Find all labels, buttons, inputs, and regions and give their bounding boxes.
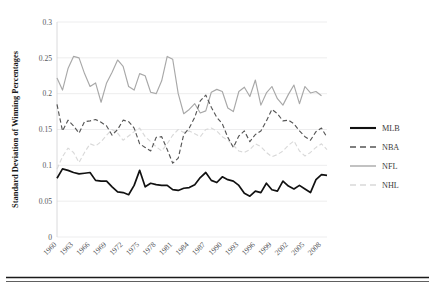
series-line-mlb [57, 169, 327, 196]
y-tick-label-0.25: 0.25 [39, 54, 52, 63]
x-tick-label-1960: 1960 [41, 240, 58, 257]
legend-label-nba: NBA [382, 143, 399, 152]
y-axis-title: Standard Deviation of Winning Percentage… [11, 50, 20, 208]
gridlines [57, 22, 327, 237]
legend-label-nfl: NFL [382, 162, 397, 171]
series-line-nhl [57, 128, 327, 169]
x-tick-label-1984: 1984 [174, 240, 191, 257]
x-tick-label-1975: 1975 [124, 240, 141, 257]
y-tick-labels: 00.050.10.150.20.250.3 [39, 18, 53, 242]
legend-label-mlb: MLB [382, 124, 400, 133]
y-tick-label-0.2: 0.2 [43, 89, 53, 98]
x-tick-label-1978: 1978 [140, 240, 157, 257]
x-tick-label-1993: 1993 [223, 240, 240, 257]
series-group [57, 56, 327, 196]
x-tick-label-2008: 2008 [306, 240, 323, 257]
x-tick-label-1981: 1981 [157, 240, 174, 257]
legend: MLBNBANFLNHL [350, 124, 400, 190]
x-tick-label-1963: 1963 [58, 240, 75, 257]
x-tick-label-2005: 2005 [289, 240, 306, 257]
x-tick-label-1969: 1969 [91, 240, 108, 257]
x-tick-label-1966: 1966 [74, 240, 91, 257]
y-tick-label-0.1: 0.1 [43, 161, 53, 170]
x-tick-label-1990: 1990 [207, 240, 224, 257]
series-line-nfl [57, 56, 321, 113]
x-tick-label-1987: 1987 [190, 240, 207, 257]
line-chart: 00.050.10.150.20.250.3Standard Deviation… [0, 0, 435, 287]
x-tick-labels: 1960196319661969197219751978198119841987… [41, 240, 323, 257]
x-tick-label-1972: 1972 [107, 240, 124, 257]
y-tick-label-0.3: 0.3 [43, 18, 53, 27]
x-tick-label-1999: 1999 [256, 240, 273, 257]
x-tick-label-1996: 1996 [240, 240, 257, 257]
legend-label-nhl: NHL [382, 181, 399, 190]
x-tick-label-2002: 2002 [273, 240, 290, 257]
y-tick-label-0.05: 0.05 [39, 197, 52, 206]
figure-container: 00.050.10.150.20.250.3Standard Deviation… [0, 0, 435, 287]
y-tick-label-0.15: 0.15 [39, 125, 52, 134]
